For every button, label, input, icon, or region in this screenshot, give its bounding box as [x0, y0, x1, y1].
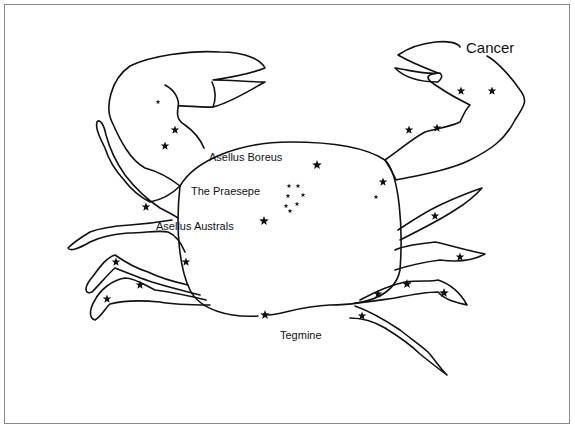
star-icon [379, 178, 388, 186]
star-icon [288, 209, 293, 214]
right-claw-outline [385, 42, 470, 160]
star-icon [171, 126, 180, 134]
star-icon [103, 295, 112, 303]
star-icon [374, 195, 379, 200]
crab-outline [68, 42, 525, 375]
constellation-title: Cancer [466, 40, 514, 55]
star-icon [142, 203, 151, 211]
star-icon [295, 202, 300, 207]
cancer-crab-illustration [0, 0, 575, 432]
left-leg-1 [97, 121, 180, 218]
star-icon [286, 194, 291, 199]
label-tegmine: Tegmine [280, 330, 322, 341]
star-icon [161, 142, 170, 150]
star-icon [405, 126, 414, 134]
right-leg-3 [355, 280, 467, 305]
star-icon [301, 193, 306, 198]
star-icon [439, 288, 449, 297]
star-icon [296, 184, 301, 189]
left-claw-finger-joint [212, 82, 215, 107]
right-leg-4 [350, 306, 447, 375]
star-icon [260, 310, 270, 319]
label-praesepe: The Praesepe [191, 186, 260, 197]
star-icon [182, 258, 191, 266]
label-asellus-boreus: Asellus Boreus [209, 152, 282, 163]
star-icon [287, 184, 292, 189]
star-icon [259, 216, 269, 225]
right-claw-finger [395, 68, 442, 82]
label-asellus-australs: Asellus Australs [156, 221, 234, 232]
star-icon [457, 87, 466, 95]
star-icon [284, 204, 289, 209]
star-icon [488, 87, 497, 95]
star-icon [112, 258, 121, 266]
left-claw-inner [165, 85, 204, 148]
star-icon [312, 160, 322, 169]
star-icon [431, 212, 440, 220]
star-icon [156, 100, 161, 105]
star-icon [402, 279, 412, 288]
right-leg-2 [395, 242, 485, 270]
left-claw-outline [109, 52, 265, 186]
right-claw-lower [385, 56, 525, 180]
star-icon [456, 253, 465, 261]
right-leg-1 [398, 188, 482, 240]
